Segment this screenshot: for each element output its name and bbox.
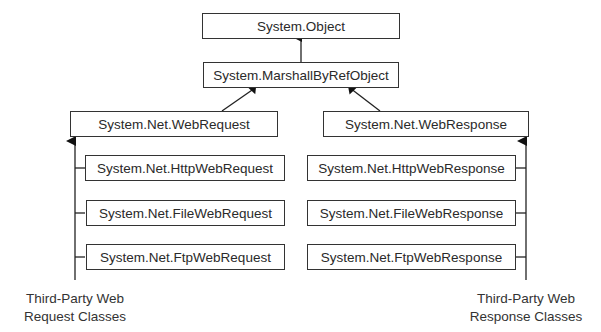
node-system-object: System.Object: [202, 13, 400, 39]
inheritance-arrow-request: [222, 86, 257, 111]
node-ftp-web-response: System.Net.FtpWebResponse: [307, 244, 516, 270]
node-web-request: System.Net.WebRequest: [70, 111, 278, 137]
node-web-response: System.Net.WebResponse: [323, 111, 529, 137]
node-file-web-response: System.Net.FileWebResponse: [307, 200, 516, 226]
third-party-response-line1: Third-Party Web: [456, 290, 596, 308]
third-party-request-line2: Request Classes: [5, 308, 145, 326]
node-marshal-by-ref-object: System.MarshallByRefObject: [203, 62, 399, 88]
node-ftp-web-request: System.Net.FtpWebRequest: [86, 244, 285, 270]
third-party-response-label: Third-Party Web Response Classes: [456, 290, 596, 326]
node-http-web-response: System.Net.HttpWebResponse: [307, 155, 516, 181]
third-party-request-line1: Third-Party Web: [5, 290, 145, 308]
inheritance-arrow-response: [347, 86, 380, 111]
third-party-response-line2: Response Classes: [456, 308, 596, 326]
node-http-web-request: System.Net.HttpWebRequest: [85, 155, 285, 181]
third-party-request-label: Third-Party Web Request Classes: [5, 290, 145, 326]
node-file-web-request: System.Net.FileWebRequest: [86, 200, 285, 226]
